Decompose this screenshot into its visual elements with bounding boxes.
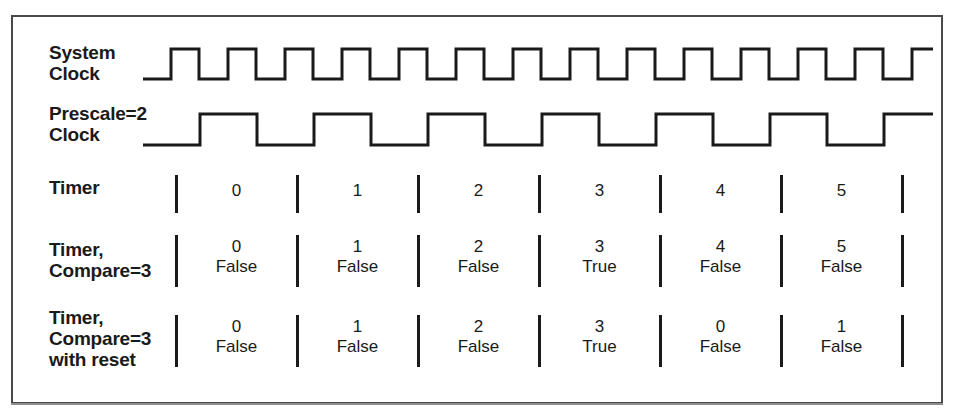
cell-value: 0 — [661, 317, 780, 337]
cell-value: 5 — [782, 181, 901, 201]
timer-compare-cell: 0 False — [177, 237, 296, 277]
figure-frame: System Clock Prescale=2 Clock Timer 0 — [11, 15, 943, 404]
timer-compare-cell: 1 False — [298, 237, 417, 277]
timer-reset-cell: 2 False — [419, 317, 538, 357]
cell-value: 0 — [177, 317, 296, 337]
tick-mark — [901, 315, 904, 367]
tick-mark — [901, 235, 904, 287]
row-label-prescale-clock: Prescale=2 Clock — [49, 103, 147, 145]
cell-value: 1 — [298, 317, 417, 337]
timer-cell: 0 — [177, 181, 296, 201]
timer-cell: 4 — [661, 181, 780, 201]
row-label-timer-compare-3-with-reset: Timer, Compare=3 with reset — [49, 307, 151, 370]
cell-compare-flag: False — [661, 257, 780, 277]
row-label-timer: Timer — [49, 177, 99, 198]
cell-value: 3 — [540, 317, 659, 337]
timer-reset-cell: 0 False — [177, 317, 296, 357]
cell-value: 3 — [540, 181, 659, 201]
cell-compare-flag: False — [661, 337, 780, 357]
cell-value: 2 — [419, 317, 538, 337]
cell-value: 1 — [298, 181, 417, 201]
prescale-clock-waveform — [143, 107, 933, 151]
timer-compare-cell: 2 False — [419, 237, 538, 277]
timer-reset-cell: 1 False — [782, 317, 901, 357]
cell-value: 4 — [661, 237, 780, 257]
system-clock-waveform — [143, 43, 933, 85]
timer-reset-cell: 3 True — [540, 317, 659, 357]
row-label-timer-compare-3: Timer, Compare=3 — [49, 239, 151, 281]
cell-compare-flag: True — [540, 257, 659, 277]
cell-value: 5 — [782, 237, 901, 257]
timer-compare-cell: 5 False — [782, 237, 901, 277]
cell-value: 1 — [782, 317, 901, 337]
timer-reset-cell: 1 False — [298, 317, 417, 357]
cell-value: 2 — [419, 237, 538, 257]
cell-value: 4 — [661, 181, 780, 201]
timer-cell: 3 — [540, 181, 659, 201]
cell-value: 1 — [298, 237, 417, 257]
cell-value: 3 — [540, 237, 659, 257]
cell-value: 0 — [177, 181, 296, 201]
timer-compare-cell: 3 True — [540, 237, 659, 277]
cell-compare-flag: False — [298, 257, 417, 277]
cell-compare-flag: False — [177, 337, 296, 357]
tick-mark — [901, 175, 904, 213]
cell-compare-flag: True — [540, 337, 659, 357]
cell-compare-flag: False — [782, 337, 901, 357]
timer-cell: 1 — [298, 181, 417, 201]
row-label-system-clock: System Clock — [49, 42, 115, 84]
cell-value: 0 — [177, 237, 296, 257]
cell-compare-flag: False — [782, 257, 901, 277]
timer-cell: 5 — [782, 181, 901, 201]
cell-compare-flag: False — [298, 337, 417, 357]
timer-compare-cell: 4 False — [661, 237, 780, 277]
cell-value: 2 — [419, 181, 538, 201]
timer-cell: 2 — [419, 181, 538, 201]
timer-reset-cell: 0 False — [661, 317, 780, 357]
cell-compare-flag: False — [419, 257, 538, 277]
figure-page: System Clock Prescale=2 Clock Timer 0 — [0, 0, 961, 419]
cell-compare-flag: False — [419, 337, 538, 357]
cell-compare-flag: False — [177, 257, 296, 277]
